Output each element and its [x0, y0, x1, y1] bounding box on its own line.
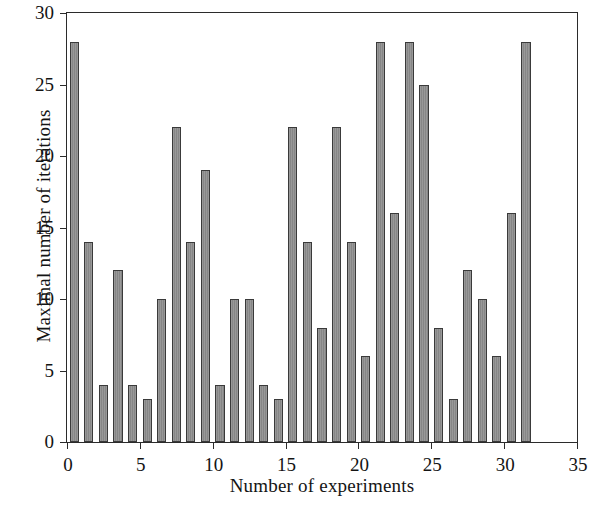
bar [274, 399, 283, 442]
bar [419, 85, 428, 443]
x-axis-tick: 20 [358, 442, 359, 449]
bar [245, 299, 254, 442]
bar [84, 242, 93, 442]
bar [361, 356, 370, 442]
bar [288, 127, 297, 442]
bar [230, 299, 239, 442]
bar [128, 385, 137, 442]
bar [157, 299, 166, 442]
x-axis-tick-label: 20 [350, 455, 369, 475]
y-axis-tick: 0 [60, 442, 67, 443]
x-axis-tick-label: 0 [63, 455, 73, 475]
bar [259, 385, 268, 442]
bar [507, 213, 516, 442]
bar [521, 42, 530, 442]
y-axis-tick-label: 15 [35, 218, 54, 238]
x-axis-title: Number of experiments [66, 475, 578, 497]
x-axis-tick: 0 [67, 442, 68, 449]
y-axis-tick: 15 [60, 228, 67, 229]
bar [186, 242, 195, 442]
bar [347, 242, 356, 442]
bar [390, 213, 399, 442]
x-axis-tick-label: 35 [569, 455, 588, 475]
x-axis-tick: 15 [286, 442, 287, 449]
x-axis-tick: 10 [213, 442, 214, 449]
x-axis-tick: 25 [431, 442, 432, 449]
y-axis-tick: 10 [60, 299, 67, 300]
bar [492, 356, 501, 442]
x-axis-tick-label: 5 [136, 455, 146, 475]
x-axis-tick-label: 30 [496, 455, 515, 475]
x-axis-tick-label: 10 [204, 455, 223, 475]
x-axis-tick-label: 15 [277, 455, 296, 475]
bar [215, 385, 224, 442]
y-axis-tick-label: 0 [45, 432, 55, 452]
bar-series [67, 13, 577, 442]
x-axis-tick: 5 [140, 442, 141, 449]
bar [99, 385, 108, 442]
y-axis-tick-label: 10 [35, 289, 54, 309]
bar [317, 328, 326, 442]
bar [449, 399, 458, 442]
y-axis-tick: 30 [60, 13, 67, 14]
bar [113, 270, 122, 442]
y-axis-tick: 5 [60, 371, 67, 372]
bar [172, 127, 181, 442]
y-axis-tick: 20 [60, 156, 67, 157]
bar [376, 42, 385, 442]
y-axis-tick-label: 25 [35, 75, 54, 95]
x-axis-tick: 35 [577, 442, 578, 449]
bar [478, 299, 487, 442]
bar [332, 127, 341, 442]
bar [143, 399, 152, 442]
bar [434, 328, 443, 442]
y-axis-tick-label: 20 [35, 146, 54, 166]
bar-chart-figure: Maximal number of iterations 05101520253… [0, 0, 610, 506]
bar [201, 170, 210, 442]
x-axis-tick: 30 [504, 442, 505, 449]
y-axis-tick-label: 5 [45, 361, 55, 381]
y-axis-tick: 25 [60, 85, 67, 86]
bar [303, 242, 312, 442]
bar [70, 42, 79, 442]
plot-area: 05101520253005101520253035 [66, 12, 578, 443]
y-axis-tick-label: 30 [35, 3, 54, 23]
bar [405, 42, 414, 442]
x-axis-tick-label: 25 [423, 455, 442, 475]
bar [463, 270, 472, 442]
